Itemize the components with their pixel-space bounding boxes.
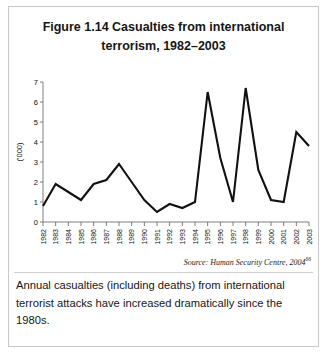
x-tick-label: 1988 [116,229,123,245]
x-tick-label: 2003 [306,229,313,245]
y-tick-label: 1 [34,198,38,207]
y-tick-label: 4 [34,138,38,147]
x-tick-label: 1995 [204,229,211,245]
x-tick-label: 1997 [230,229,237,245]
x-tick-label: 1985 [78,229,85,245]
divider [14,272,313,273]
x-tick-label: 1992 [166,229,173,245]
x-tick-label: 1993 [179,229,186,245]
figure-caption: Annual casualties (including deaths) fro… [16,277,308,330]
x-tick-label: 2001 [280,229,287,245]
x-tick-label: 1983 [52,229,59,245]
x-tick-label: 1987 [103,229,110,245]
x-tick-label: 1984 [65,229,72,245]
figure-title: Figure 1.14 Casualties from internationa… [20,18,307,56]
x-tick-label: 1996 [217,229,224,245]
x-tick-label: 1994 [192,229,199,245]
x-tick-label: 1989 [128,229,135,245]
y-tick-label: 2 [34,178,38,187]
chart-plot-area: 01234567('000)19821983198419851986198719… [14,70,313,255]
x-tick-label: 1991 [154,229,161,245]
data-series-line [43,88,309,212]
y-tick-label: 0 [34,218,38,227]
source-superscript: 66 [306,256,312,262]
x-tick-label: 1999 [255,229,262,245]
x-tick-label: 1998 [242,229,249,245]
y-tick-label: 3 [34,158,38,167]
y-tick-label: 5 [34,118,38,127]
line-chart: 01234567('000)19821983198419851986198719… [14,70,313,255]
x-tick-label: 2000 [268,229,275,245]
source-text: Source: Human Security Centre, 2004 [184,258,306,267]
figure-screenshot: Figure 1.14 Casualties from internationa… [0,0,327,357]
x-tick-label: 1990 [141,229,148,245]
x-tick-label: 1982 [40,229,47,245]
x-tick-label: 2002 [293,229,300,245]
x-tick-label: 1986 [90,229,97,245]
y-tick-label: 6 [34,98,38,107]
source-note: Source: Human Security Centre, 200466 [184,256,311,267]
y-tick-label: 7 [34,78,38,87]
y-axis-title: ('000) [15,142,24,161]
